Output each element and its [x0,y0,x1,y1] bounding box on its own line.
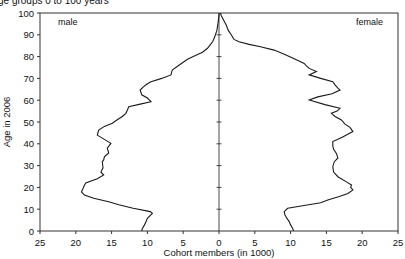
y-tick-label: 80 [23,51,34,62]
x-tick-label: 20 [357,237,368,248]
female-series-line [220,13,353,231]
male-label: male [58,17,78,27]
y-tick-label: 40 [23,138,34,149]
female-label: female [356,17,383,27]
y-tick-label: 70 [23,73,34,84]
x-tick-label: 25 [393,237,404,248]
y-tick-label: 100 [18,8,34,19]
center-axis [217,13,222,231]
x-axis: 2520151050510152025 [35,231,404,248]
x-tick-label: 25 [35,237,46,248]
x-tick-label: 20 [71,237,82,248]
y-tick-label: 20 [23,182,34,193]
y-tick-label: 50 [23,117,34,128]
y-tick-label: 60 [23,95,34,106]
x-axis-title: Cohort members (in 1000) [164,247,275,258]
x-tick-label: 15 [106,237,117,248]
x-tick-label: 15 [321,237,332,248]
y-tick-label: 0 [29,226,34,237]
y-axis: 0102030405060708090100 [18,8,40,237]
y-tick-label: 90 [23,29,34,40]
y-tick-label: 30 [23,160,34,171]
x-tick-label: 10 [285,237,296,248]
male-series-line [82,13,220,231]
y-axis-title: Age in 2006 [1,97,12,148]
x-tick-label: 10 [142,237,153,248]
population-pyramid-chart: 0102030405060708090100 25201510505101520… [0,0,405,259]
y-tick-label: 10 [23,204,34,215]
